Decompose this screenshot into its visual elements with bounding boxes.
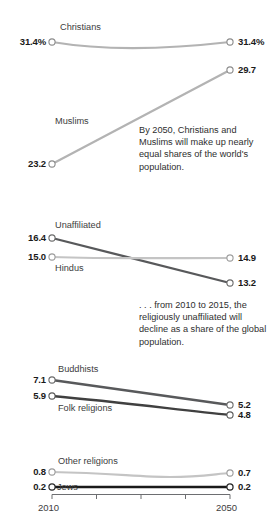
series-label-hindus: Hindus: [55, 263, 84, 273]
value-unaffiliated-2050: 13.2: [238, 278, 256, 288]
series-label-other-religions: Other religions: [58, 456, 118, 466]
point-hindus-2050: [227, 255, 233, 261]
axis-label-2050: 2050: [216, 502, 237, 513]
annotation-unaffiliated: . . . from 2010 to 2015, the religiously…: [139, 299, 271, 348]
point-buddhists-2050: [227, 402, 233, 408]
value-christians-2050: 31.4%: [238, 37, 264, 47]
value-hindus-2010: 15.0: [2, 252, 46, 262]
point-other-religions-2010: [49, 469, 55, 475]
value-jews-2010: 0.2: [2, 482, 46, 492]
value-hindus-2050: 14.9: [238, 253, 256, 263]
value-unaffiliated-2010: 16.4: [2, 233, 46, 243]
series-label-folk-religions: Folk religions: [58, 403, 112, 413]
value-christians-2010: 31.4%: [2, 37, 46, 47]
value-muslims-2050: 29.7: [238, 65, 256, 75]
series-label-jews: Jews: [57, 482, 78, 492]
point-buddhists-2010: [49, 377, 55, 383]
value-other-religions-2050: 0.7: [238, 468, 251, 478]
line-other-religions: [52, 472, 230, 477]
point-hindus-2010: [49, 254, 55, 260]
value-buddhists-2010: 7.1: [2, 375, 46, 385]
value-jews-2050: 0.2: [238, 482, 251, 492]
point-jews-2010: [49, 484, 55, 490]
line-buddhists: [52, 380, 230, 405]
point-other-religions-2050: [227, 470, 233, 476]
point-muslims-2010: [49, 161, 55, 167]
slope-chart: 31.4% Christians 31.4% 23.2 Muslims 29.7…: [0, 0, 278, 517]
point-unaffiliated-2010: [49, 235, 55, 241]
series-label-christians: Christians: [60, 22, 101, 32]
series-label-buddhists: Buddhists: [58, 364, 98, 374]
point-christians-2010: [49, 39, 55, 45]
series-label-muslims: Muslims: [55, 116, 89, 126]
point-jews-2050: [227, 484, 233, 490]
value-folk-religions-2010: 5.9: [2, 391, 46, 401]
point-unaffiliated-2050: [227, 280, 233, 286]
value-muslims-2010: 23.2: [2, 159, 46, 169]
line-hindus: [52, 257, 230, 258]
point-folk-religions-2050: [227, 412, 233, 418]
point-muslims-2050: [227, 67, 233, 73]
annotation-christians-muslims: By 2050, Christians and Muslims will mak…: [139, 124, 271, 173]
axis-label-2010: 2010: [38, 502, 59, 513]
point-christians-2050: [227, 39, 233, 45]
value-other-religions-2010: 0.8: [2, 467, 46, 477]
value-folk-religions-2050: 4.8: [238, 410, 251, 420]
series-label-unaffiliated: Unaffiliated: [55, 220, 101, 230]
point-folk-religions-2010: [49, 393, 55, 399]
line-christians: [52, 42, 230, 48]
line-unaffiliated: [52, 238, 230, 283]
